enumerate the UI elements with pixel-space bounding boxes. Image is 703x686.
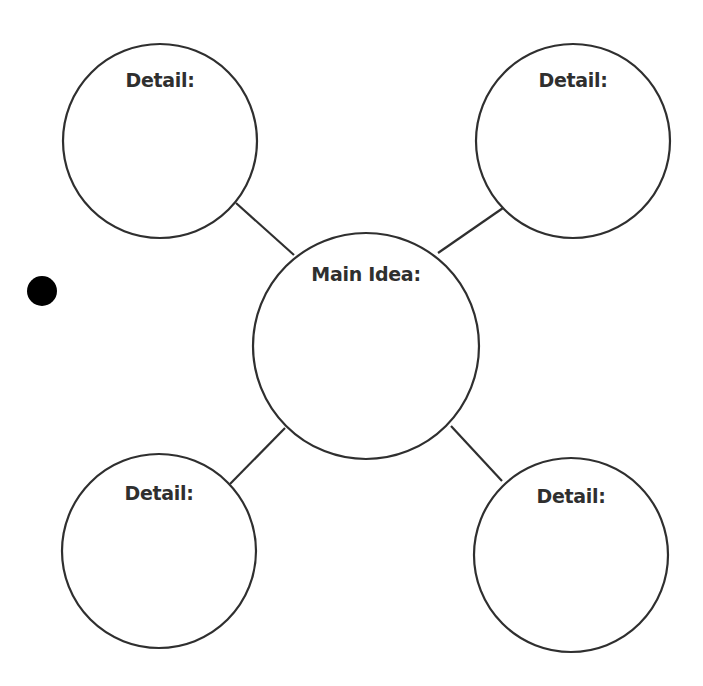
connector-line-bottom-right <box>451 426 502 481</box>
main-idea-label: Main Idea: <box>311 263 420 285</box>
connector-line-bottom-left <box>230 428 285 484</box>
connector-line-top-right <box>438 208 503 253</box>
detail-label-bottom-left: Detail: <box>124 482 193 504</box>
detail-label-top-left: Detail: <box>125 69 194 91</box>
connector-line-top-left <box>236 203 294 255</box>
diagram-canvas <box>0 0 703 686</box>
detail-label-top-right: Detail: <box>538 69 607 91</box>
bullet-dot <box>27 276 57 306</box>
detail-label-bottom-right: Detail: <box>536 485 605 507</box>
